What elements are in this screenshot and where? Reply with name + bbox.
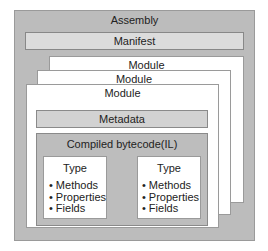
member-fields: Fields bbox=[49, 203, 106, 215]
member-fields: Fields bbox=[142, 203, 199, 215]
compiled-bytecode-title: Compiled bytecode(IL) bbox=[36, 138, 208, 150]
module-label-front: Module bbox=[26, 87, 219, 99]
type-members-1: Methods Properties Fields bbox=[49, 180, 106, 215]
manifest-label: Manifest bbox=[25, 35, 244, 47]
type-title-1: Type bbox=[43, 162, 107, 174]
type-members-2: Methods Properties Fields bbox=[142, 180, 199, 215]
metadata-label: Metadata bbox=[36, 113, 208, 125]
member-methods: Methods bbox=[49, 180, 106, 192]
assembly-title: Assembly bbox=[14, 14, 255, 26]
type-title-2: Type bbox=[137, 162, 201, 174]
member-methods: Methods bbox=[142, 180, 199, 192]
